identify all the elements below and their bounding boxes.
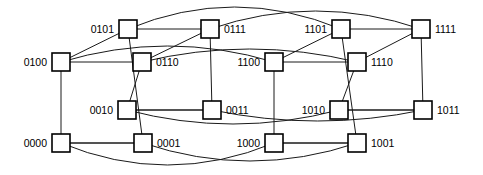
node-1110[interactable] bbox=[348, 53, 366, 71]
edge-1101-1001 bbox=[341, 29, 357, 143]
node-label-1100: 1100 bbox=[237, 56, 260, 68]
node-0100[interactable] bbox=[52, 53, 70, 71]
node-label-1101: 1101 bbox=[304, 23, 327, 35]
node-1000[interactable] bbox=[265, 134, 283, 152]
node-label-0100: 0100 bbox=[24, 56, 48, 68]
node-label-0001: 0001 bbox=[157, 137, 181, 149]
node-0010[interactable] bbox=[118, 101, 136, 119]
edge-0111-0011 bbox=[210, 29, 212, 110]
node-0011[interactable] bbox=[203, 101, 221, 119]
node-1001[interactable] bbox=[348, 134, 366, 152]
label-layer: 0101011111011111010001101100111000100011… bbox=[24, 23, 460, 149]
node-0001[interactable] bbox=[134, 134, 152, 152]
node-layer bbox=[52, 20, 432, 152]
edge-0101-0001 bbox=[128, 29, 143, 143]
hypercube-graph-canvas: 0101011111011111010001101100111000100011… bbox=[0, 0, 483, 175]
node-0000[interactable] bbox=[52, 134, 70, 152]
node-label-1001: 1001 bbox=[371, 137, 395, 149]
node-label-1111: 1111 bbox=[435, 23, 456, 35]
node-label-0000: 0000 bbox=[24, 137, 48, 149]
hypercube-diagram: 0101011111011111010001101100111000100011… bbox=[0, 0, 483, 175]
node-label-1010: 1010 bbox=[302, 104, 326, 116]
edge-1111-1011 bbox=[421, 29, 423, 110]
node-1101[interactable] bbox=[332, 20, 350, 38]
node-label-1110: 1110 bbox=[371, 56, 393, 68]
node-label-1011: 1011 bbox=[437, 104, 460, 116]
node-label-1000: 1000 bbox=[237, 137, 261, 149]
node-1010[interactable] bbox=[330, 101, 348, 119]
node-1111[interactable] bbox=[412, 20, 430, 38]
node-label-0010: 0010 bbox=[90, 104, 114, 116]
node-1100[interactable] bbox=[265, 53, 283, 71]
node-label-0011: 0011 bbox=[226, 104, 249, 116]
node-0101[interactable] bbox=[119, 20, 137, 38]
node-label-0101: 0101 bbox=[91, 23, 115, 35]
node-label-0110: 0110 bbox=[156, 56, 179, 68]
node-0111[interactable] bbox=[201, 20, 219, 38]
node-label-0111: 0111 bbox=[224, 23, 246, 35]
node-0110[interactable] bbox=[133, 53, 151, 71]
node-1011[interactable] bbox=[414, 101, 432, 119]
